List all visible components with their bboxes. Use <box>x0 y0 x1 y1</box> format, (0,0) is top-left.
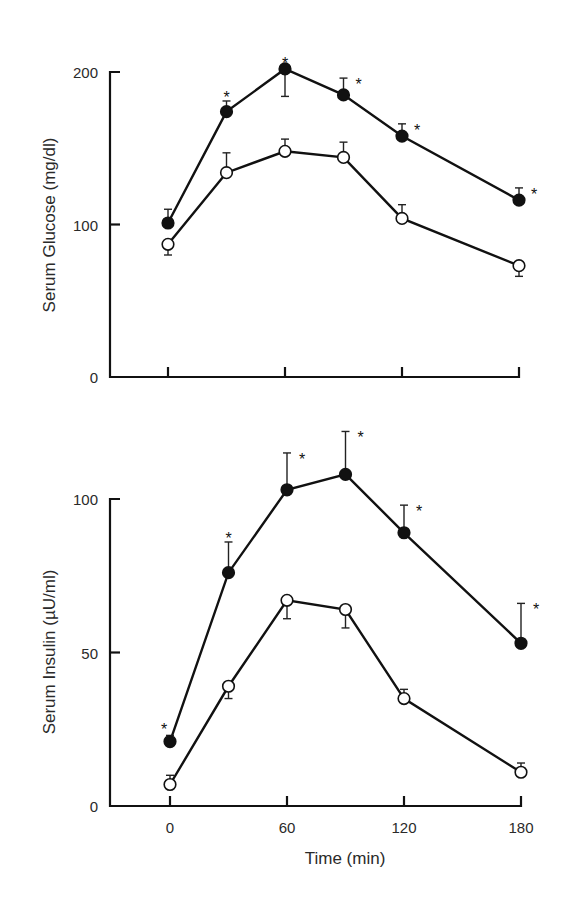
filled-circle-marker <box>223 567 235 579</box>
significance-asterisk: * <box>223 89 229 106</box>
open-circle-marker <box>279 146 291 158</box>
glucose-y-axis-title: Serum Glucose (mg/dl) <box>40 138 59 313</box>
axis-frame <box>110 499 521 806</box>
significance-asterisk: * <box>533 601 539 618</box>
y-tick-label: 0 <box>90 798 98 815</box>
significance-asterisk: * <box>161 721 167 738</box>
significance-asterisk: * <box>282 55 288 72</box>
filled-circle-marker <box>515 637 527 649</box>
y-tick-label: 50 <box>81 645 98 662</box>
x-axis-title: Time (min) <box>305 849 386 868</box>
significance-asterisk: * <box>414 122 420 139</box>
filled-circle-marker <box>513 194 525 206</box>
open-circle-marker <box>396 213 408 225</box>
open-circle-marker <box>398 693 410 705</box>
y-tick-label: 200 <box>73 64 98 81</box>
filled-circle-marker <box>396 130 408 142</box>
open-circle-marker <box>223 680 235 692</box>
insulin-y-axis-title: Serum Insulin (µU/ml) <box>40 570 59 735</box>
open-circle-marker <box>281 595 293 607</box>
filled-circle-marker <box>398 527 410 539</box>
open-circle-marker <box>164 779 176 791</box>
open-circle-marker <box>515 766 527 778</box>
figure: 0100200***** 050100060120180****** Serum… <box>0 0 568 901</box>
y-tick-label: 100 <box>73 217 98 234</box>
filled-circle-marker <box>338 89 350 101</box>
significance-asterisk: * <box>416 503 422 520</box>
filled-circle-marker <box>221 106 233 118</box>
significance-asterisk: * <box>531 186 537 203</box>
y-tick-label: 100 <box>73 491 98 508</box>
x-tick-label: 0 <box>166 819 174 836</box>
filled-circle-marker <box>162 217 174 229</box>
open-circle-marker <box>162 239 174 251</box>
x-tick-label: 60 <box>279 819 296 836</box>
x-tick-label: 120 <box>391 819 416 836</box>
significance-asterisk: * <box>225 530 231 547</box>
y-tick-label: 0 <box>90 369 98 386</box>
insulin-panel: 050100060120180****** <box>73 429 539 836</box>
x-tick-label: 180 <box>508 819 533 836</box>
significance-asterisk: * <box>357 429 363 446</box>
series-line-open-circles <box>168 151 519 265</box>
chart-canvas: 0100200***** 050100060120180****** Serum… <box>0 0 568 901</box>
open-circle-marker <box>340 604 352 616</box>
open-circle-marker <box>338 152 350 164</box>
filled-circle-marker <box>340 469 352 481</box>
significance-asterisk: * <box>299 451 305 468</box>
filled-circle-marker <box>281 484 293 496</box>
open-circle-marker <box>221 167 233 179</box>
glucose-panel: 0100200***** <box>73 55 537 386</box>
significance-asterisk: * <box>355 76 361 93</box>
open-circle-marker <box>513 260 525 272</box>
